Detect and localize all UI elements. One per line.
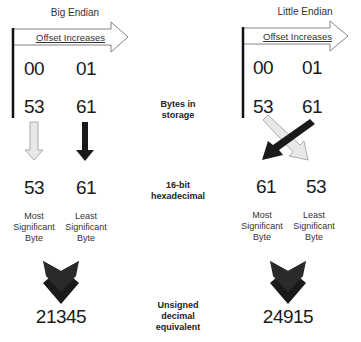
right-hex-0: 61 bbox=[246, 176, 286, 198]
right-offset-0: 00 bbox=[243, 57, 283, 79]
label-bytes-in-storage: Bytes in storage bbox=[138, 99, 218, 121]
right-significance-0: Most Significant Byte bbox=[232, 210, 292, 243]
left-significance-1: Least Significant Byte bbox=[56, 211, 116, 244]
right-hex-1: 53 bbox=[296, 176, 336, 198]
right-significance-1: Least Significant Byte bbox=[284, 210, 344, 243]
left-hex-1: 61 bbox=[66, 177, 106, 199]
label-16-bit-hex: 16-bit hexadecimal bbox=[138, 180, 218, 202]
little-endian-title: Little Endian bbox=[265, 6, 345, 17]
left-decimal: 21345 bbox=[21, 306, 101, 328]
right-offset-1: 01 bbox=[292, 57, 332, 79]
left-byte-0: 53 bbox=[14, 96, 54, 118]
right-byte-0: 53 bbox=[243, 96, 283, 118]
right-decimal: 24915 bbox=[248, 306, 328, 328]
light-down-arrow-icon bbox=[25, 122, 43, 160]
left-offset-1: 01 bbox=[66, 58, 106, 80]
left-significance-0: Most Significant Byte bbox=[4, 211, 64, 244]
left-big-down-arrow-icon bbox=[43, 261, 79, 304]
right-byte-1: 61 bbox=[292, 96, 332, 118]
diagram-graphics bbox=[0, 0, 361, 342]
left-offset-0: 00 bbox=[14, 58, 54, 80]
right-offset-label: Offset Increases bbox=[263, 31, 332, 42]
big-endian-title: Big Endian bbox=[40, 7, 110, 18]
right-big-down-arrow-icon bbox=[270, 261, 306, 304]
left-offset-label: Offset Increases bbox=[36, 32, 105, 43]
left-byte-1: 61 bbox=[66, 96, 106, 118]
left-hex-0: 53 bbox=[14, 177, 54, 199]
dark-down-arrow-icon bbox=[76, 122, 94, 161]
label-unsigned-decimal: Unsigned decimal equivalent bbox=[138, 300, 218, 333]
